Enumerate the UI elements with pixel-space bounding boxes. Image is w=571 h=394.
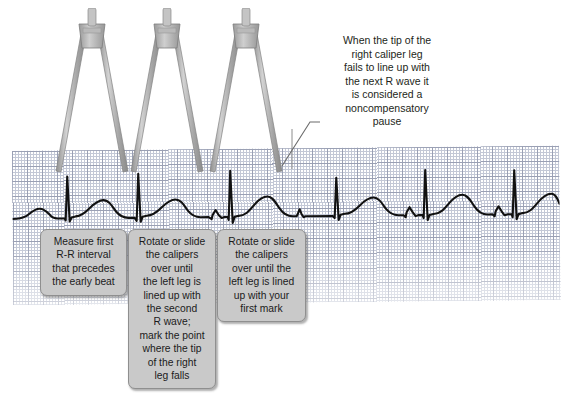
callout-1-line-2: R-R interval bbox=[45, 248, 122, 261]
callout-3-line-1: Rotate or slide bbox=[222, 235, 301, 248]
callout-3-line-3: over until the bbox=[222, 262, 301, 275]
callout-3-line-4: left leg is lined bbox=[222, 275, 301, 288]
annotation-line-7: pause bbox=[311, 115, 463, 129]
callout-2-line-9: where the tip bbox=[133, 342, 211, 355]
callout-2-line-2: the calipers bbox=[133, 248, 211, 261]
callout-1-line-1: Measure first bbox=[45, 235, 122, 248]
callout-3-line-2: the calipers bbox=[222, 248, 301, 261]
callout-2-line-5: lined up with bbox=[133, 289, 211, 302]
callout-step-1: Measure first R-R interval that precedes… bbox=[40, 229, 127, 296]
callout-2-line-1: Rotate or slide bbox=[133, 235, 211, 248]
callout-2-line-3: over until bbox=[133, 262, 211, 275]
callout-3-line-6: first mark bbox=[222, 302, 301, 315]
callout-1-line-3: that precedes bbox=[45, 262, 122, 275]
annotation-line-6: noncompensatory bbox=[311, 102, 463, 116]
callout-2-line-11: leg falls bbox=[133, 369, 211, 382]
callout-2-line-6: the second bbox=[133, 302, 211, 315]
callout-step-2: Rotate or slide the calipers over until … bbox=[128, 229, 216, 389]
caliper-2[interactable] bbox=[127, 8, 207, 180]
annotation-line-5: is considered a bbox=[311, 88, 463, 102]
annotation-line-1: When the tip of the bbox=[311, 34, 463, 48]
caliper-3[interactable] bbox=[206, 8, 286, 180]
figure-canvas: When the tip of the right caliper leg fa… bbox=[0, 0, 571, 394]
callout-2-line-7: R wave; bbox=[133, 315, 211, 328]
callout-2-line-10: of the right bbox=[133, 356, 211, 369]
callout-2-line-8: mark the point bbox=[133, 329, 211, 342]
callout-2-line-4: the left leg is bbox=[133, 275, 211, 288]
annotation-line-3: fails to line up with bbox=[311, 61, 463, 75]
annotation-line-2: right caliper leg bbox=[311, 48, 463, 62]
caliper-1[interactable] bbox=[52, 8, 132, 180]
annotation-text: When the tip of the right caliper leg fa… bbox=[311, 34, 463, 129]
callout-step-3: Rotate or slide the calipers over until … bbox=[217, 229, 306, 322]
callout-3-line-5: up with your bbox=[222, 289, 301, 302]
callout-1-line-4: the early beat bbox=[45, 275, 122, 288]
annotation-line-4: the next R wave it bbox=[311, 75, 463, 89]
